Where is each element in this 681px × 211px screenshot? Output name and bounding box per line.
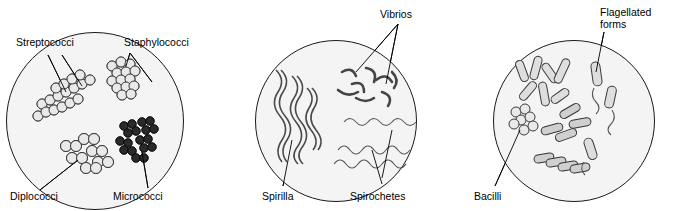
figure-canvas: Streptococci Staphylococci Diplococci Mi… [0, 0, 681, 211]
label-bacilli: Bacilli [474, 190, 501, 202]
label-spirilla: Spirilla [262, 190, 294, 202]
label-diplococci: Diplococci [10, 190, 58, 202]
micrococci-packets [116, 117, 158, 162]
label-staphylococci: Staphylococci [124, 36, 189, 48]
label-flagellated-forms: Flagellated forms [600, 6, 651, 30]
staphylococci-cluster [107, 57, 140, 100]
label-micrococci: Micrococci [113, 190, 163, 202]
panel-bacilli-field [493, 40, 655, 202]
panel-spirals-field [255, 40, 417, 202]
label-spirochetes: Spirochetes [350, 190, 405, 202]
label-streptococci: Streptococci [16, 36, 74, 48]
label-vibrios: Vibrios [380, 8, 412, 20]
